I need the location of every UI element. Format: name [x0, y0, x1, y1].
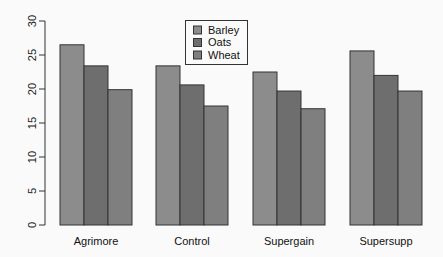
legend-swatch-oats	[194, 39, 202, 47]
bar-barley	[253, 72, 277, 225]
legend-label: Oats	[208, 36, 232, 48]
bar-chart: 051015202530 AgrimoreControlSupergainSup…	[0, 0, 443, 257]
bar-oats	[277, 91, 301, 225]
bar-group-agrimore	[60, 45, 132, 225]
legend-label: Wheat	[208, 49, 240, 61]
y-tick-label: 10	[26, 151, 38, 163]
x-category-label: Supergain	[264, 235, 314, 247]
y-tick-label: 20	[26, 83, 38, 95]
x-axis-labels: AgrimoreControlSupergainSupersupp	[74, 235, 413, 247]
bar-barley	[156, 66, 180, 225]
bars	[60, 45, 422, 225]
y-tick-label: 30	[26, 15, 38, 27]
y-tick-label: 0	[26, 222, 38, 228]
x-category-label: Control	[174, 235, 209, 247]
bar-barley	[60, 45, 84, 225]
legend-label: Barley	[208, 24, 240, 36]
bar-oats	[374, 75, 398, 225]
bar-barley	[350, 51, 374, 225]
bar-oats	[180, 85, 204, 225]
bar-group-supersupp	[350, 51, 422, 225]
legend-swatch-barley	[194, 26, 202, 34]
bar-group-supergain	[253, 72, 325, 225]
y-tick-label: 15	[26, 117, 38, 129]
y-tick-label: 5	[26, 188, 38, 194]
legend: BarleyOatsWheat	[186, 21, 248, 65]
x-category-label: Agrimore	[74, 235, 119, 247]
x-category-label: Supersupp	[359, 235, 412, 247]
y-axis: 051015202530	[26, 15, 45, 228]
legend-swatch-wheat	[194, 51, 202, 59]
bar-wheat	[108, 90, 132, 225]
bar-wheat	[204, 106, 228, 225]
bar-wheat	[301, 109, 325, 225]
y-tick-label: 25	[26, 49, 38, 61]
bar-wheat	[398, 91, 422, 225]
bar-oats	[84, 66, 108, 225]
bar-group-control	[156, 66, 228, 225]
